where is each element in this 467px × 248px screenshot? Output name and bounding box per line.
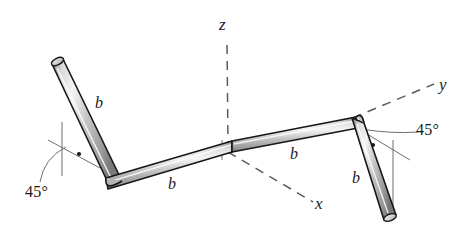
figure-canvas bbox=[0, 0, 467, 248]
angle-label-right: 45° bbox=[416, 122, 439, 138]
bar-segment-1-highlight bbox=[57, 68, 114, 184]
coordinate-axes bbox=[222, 38, 434, 202]
bar-segment-1 bbox=[50, 56, 122, 187]
right-angle-arc bbox=[361, 129, 418, 133]
z-axis-line bbox=[227, 38, 228, 150]
bent-bar bbox=[50, 56, 397, 223]
x-axis-line bbox=[228, 152, 313, 202]
axis-label-z: z bbox=[219, 16, 226, 33]
axis-label-y: y bbox=[439, 76, 447, 93]
left-angle-dot bbox=[77, 152, 81, 156]
segment-label-3: b bbox=[290, 146, 298, 162]
axis-label-x: x bbox=[315, 195, 323, 212]
angle-label-left: 45° bbox=[25, 184, 48, 200]
segment-label-1: b bbox=[95, 95, 103, 111]
segment-label-4: b bbox=[352, 170, 360, 186]
segment-label-2: b bbox=[168, 176, 176, 192]
bent-bar-figure: z y x b b b b 45° 45° bbox=[0, 0, 467, 248]
